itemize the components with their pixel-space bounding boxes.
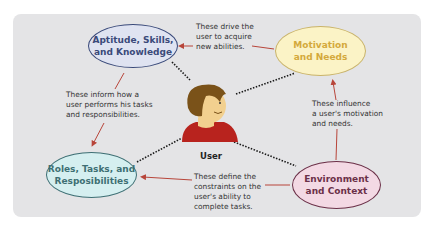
node-aptitude: Aptitude, Skills,and Knowledge (88, 24, 178, 68)
node-aptitude-line2: and Knowledge (94, 47, 172, 57)
arrow-to-roles-2 (143, 177, 192, 180)
dotted-link-aptitude (172, 62, 190, 80)
node-environment-line1: Environment (304, 174, 369, 184)
note-drive: These drive the user to acquire new abil… (196, 22, 254, 52)
note-inform: These inform how a user performs his tas… (66, 90, 153, 120)
node-roles: Roles, Tasks, andResposibilities (46, 152, 137, 198)
note-influence-line: a user's motivation (312, 109, 383, 119)
node-motivation-line1: Motivation (293, 40, 347, 50)
note-influence: These influence a user's motivation and … (312, 99, 383, 129)
note-inform-line: user performs his tasks (66, 100, 153, 110)
note-drive-line: These drive the (196, 22, 254, 32)
note-drive-line: user to acquire (196, 32, 254, 42)
note-define-line: user's ability to (194, 192, 261, 202)
node-environment-line2: and Context (306, 186, 368, 196)
node-motivation: Motivationand Needs (275, 26, 366, 76)
node-motivation-line2: and Needs (294, 52, 348, 62)
node-roles-line1: Roles, Tasks, and (48, 164, 135, 174)
arrow-to-roles (93, 123, 104, 144)
node-aptitude-line1: Aptitude, Skills, (92, 35, 173, 45)
note-inform-line: These inform how a (66, 90, 153, 100)
user-avatar-icon (180, 82, 240, 146)
note-define-line: constraints on the (194, 182, 261, 192)
note-influence-line: These influence (312, 99, 383, 109)
dotted-link-motivation (236, 73, 295, 94)
note-define: These define the constraints on the user… (194, 172, 261, 212)
dotted-link-environment (234, 142, 296, 166)
note-define-line: These define the (194, 172, 261, 182)
note-influence-line: and needs. (312, 119, 383, 129)
arrow-to-motivation (333, 82, 336, 100)
note-drive-line: new abilities. (196, 42, 254, 52)
note-define-line: complete tasks. (194, 202, 261, 212)
node-environment: Environmentand Context (292, 161, 381, 209)
user-label: User (200, 151, 222, 161)
note-inform-line: and responsibilities. (66, 110, 153, 120)
dotted-link-roles (137, 138, 182, 162)
node-roles-line2: Resposibilities (54, 176, 128, 186)
